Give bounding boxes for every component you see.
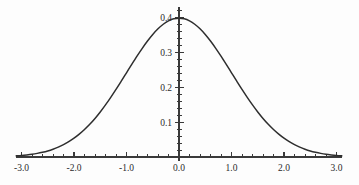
x-axis-tick-label: 2.0 (278, 163, 290, 173)
y-axis-tick-label: 0.1 (160, 118, 172, 128)
axes-group: -3.0-2.0-1.00.01.02.03.00.10.20.30.4 (14, 7, 343, 173)
x-axis-tick-label: 1.0 (226, 163, 238, 173)
chart-canvas: -3.0-2.0-1.00.01.02.03.00.10.20.30.4 (0, 0, 359, 185)
normal-distribution-chart: -3.0-2.0-1.00.01.02.03.00.10.20.30.4 (0, 0, 359, 185)
x-axis-tick-label: -2.0 (66, 163, 81, 173)
y-axis-tick-label: 0.3 (160, 48, 172, 58)
y-axis-tick-label: 0.2 (160, 83, 172, 93)
x-axis-tick-label: 0.0 (173, 163, 185, 173)
x-axis-tick-label: -1.0 (119, 163, 134, 173)
x-axis-tick-label: 3.0 (331, 163, 343, 173)
x-axis-tick-label: -3.0 (14, 163, 29, 173)
